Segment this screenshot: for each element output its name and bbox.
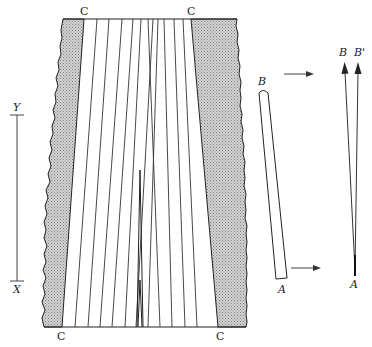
scale-bar — [10, 115, 24, 281]
rod — [259, 91, 287, 280]
left-shaded-region — [42, 19, 84, 327]
vector-ab — [342, 62, 356, 270]
vector-ab-prime — [355, 62, 362, 270]
label-vector-b: B — [338, 46, 347, 59]
diagram-canvas: C C C C Y X B A B B' A — [0, 0, 372, 347]
label-corner-bottom-left: C — [57, 330, 65, 343]
label-rod-b: B — [257, 75, 266, 88]
label-scale-y: Y — [13, 101, 22, 114]
arrow-top — [284, 71, 314, 77]
label-scale-x: X — [12, 283, 22, 296]
label-corner-top-left: C — [80, 5, 88, 18]
label-vector-b-prime: B' — [353, 46, 365, 59]
label-rod-a: A — [277, 283, 286, 296]
label-corner-bottom-right: C — [216, 330, 224, 343]
right-shaded-region — [191, 19, 247, 327]
arrow-bottom — [291, 265, 321, 271]
grain-lines — [75, 19, 197, 327]
label-corner-top-right: C — [187, 5, 195, 18]
label-vector-a: A — [349, 278, 358, 291]
